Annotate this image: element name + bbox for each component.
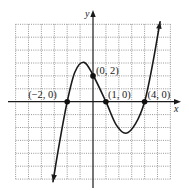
- point-label: (1, 0): [108, 89, 131, 101]
- point-label: (4, 0): [148, 89, 171, 101]
- cubic-function-graph: x y (−2, 0)(0, 2)(1, 0)(4, 0): [0, 0, 189, 191]
- y-axis-arrow-icon: [90, 10, 95, 17]
- curve-arrow-down-icon: [51, 174, 57, 181]
- labeled-points: (−2, 0)(0, 2)(1, 0)(4, 0): [28, 65, 171, 105]
- curve-arrow-up-icon: [156, 22, 162, 29]
- y-axis-label: y: [84, 8, 90, 19]
- point-label: (−2, 0): [28, 89, 57, 101]
- point-marker: [103, 99, 109, 105]
- point-label: (0, 2): [96, 65, 119, 77]
- point-marker: [142, 99, 148, 105]
- x-axis-label: x: [173, 103, 179, 114]
- point-marker: [64, 99, 70, 105]
- point-marker: [90, 73, 96, 79]
